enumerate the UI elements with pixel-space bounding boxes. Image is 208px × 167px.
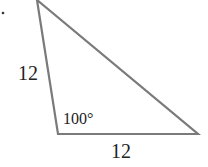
left-side-length-label: 12: [18, 62, 38, 84]
angle-label: 100°: [63, 110, 93, 127]
triangle: [37, 0, 198, 134]
bottom-side-length-label: 12: [111, 140, 131, 162]
dot-marker: [2, 12, 5, 15]
triangle-diagram: 12 100° 12: [0, 0, 208, 167]
